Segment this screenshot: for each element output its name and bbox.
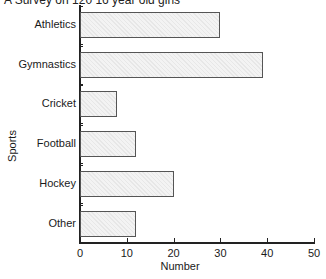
chart-title: A Survey on 120 16 year old girls <box>4 0 180 7</box>
x-tick-label: 10 <box>121 247 133 259</box>
x-tick <box>220 238 221 243</box>
category-label: Gymnastics <box>19 58 76 70</box>
bar-other <box>80 211 136 237</box>
category-label: Cricket <box>42 97 76 109</box>
y-tick <box>79 205 83 206</box>
bar-athletics <box>80 12 220 38</box>
bar-gymnastics <box>80 52 263 78</box>
category-label: Football <box>37 137 76 149</box>
x-tick-label: 40 <box>261 247 273 259</box>
category-label: Hockey <box>39 177 76 189</box>
x-tick-label: 20 <box>167 247 179 259</box>
x-tick-label: 30 <box>214 247 226 259</box>
bar-chart: A Survey on 120 16 year old girls Sports… <box>0 0 326 279</box>
y-axis-label: Sports <box>6 130 18 162</box>
x-tick <box>267 238 268 243</box>
category-label: Athletics <box>34 18 76 30</box>
y-tick <box>79 6 83 7</box>
x-tick <box>80 238 81 243</box>
y-tick <box>79 125 83 126</box>
y-tick <box>79 165 83 166</box>
x-tick-label: 0 <box>77 247 83 259</box>
x-tick <box>174 238 175 243</box>
bar-football <box>80 131 136 157</box>
x-tick <box>314 238 315 243</box>
bar-cricket <box>80 91 117 117</box>
bar-hockey <box>80 171 174 197</box>
y-tick <box>79 46 83 47</box>
x-tick-label: 50 <box>308 247 320 259</box>
y-tick <box>79 85 83 86</box>
x-axis-label: Number <box>160 260 199 272</box>
category-label: Other <box>48 217 76 229</box>
x-tick <box>127 238 128 243</box>
x-axis-line <box>79 242 315 244</box>
